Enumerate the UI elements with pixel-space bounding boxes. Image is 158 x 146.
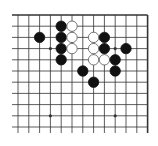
black-stone[interactable] xyxy=(110,66,120,76)
star-point xyxy=(114,47,117,50)
black-stone[interactable] xyxy=(78,66,88,76)
white-stone[interactable] xyxy=(88,43,98,53)
star-point xyxy=(49,114,52,117)
black-stone[interactable] xyxy=(121,43,131,53)
white-stone[interactable] xyxy=(67,32,77,42)
black-stone[interactable] xyxy=(99,32,109,42)
white-stone[interactable] xyxy=(88,55,98,65)
black-stone[interactable] xyxy=(34,32,44,42)
black-stone[interactable] xyxy=(56,43,66,53)
black-stone[interactable] xyxy=(56,32,66,42)
white-stone[interactable] xyxy=(67,21,77,31)
black-stone[interactable] xyxy=(88,77,98,87)
black-stone[interactable] xyxy=(99,43,109,53)
black-stone[interactable] xyxy=(110,55,120,65)
white-stone[interactable] xyxy=(67,43,77,53)
black-stone[interactable] xyxy=(56,55,66,65)
white-stone[interactable] xyxy=(88,32,98,42)
black-stone[interactable] xyxy=(56,21,66,31)
white-stone[interactable] xyxy=(99,55,109,65)
star-point xyxy=(49,47,52,50)
go-board[interactable] xyxy=(0,0,158,146)
star-point xyxy=(114,114,117,117)
